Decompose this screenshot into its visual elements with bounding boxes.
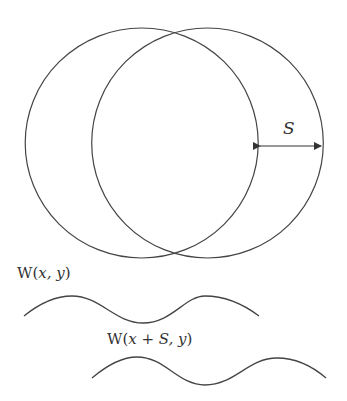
shift-label: S <box>283 118 295 138</box>
label-func: W( <box>107 330 128 348</box>
label-func: W( <box>17 264 38 282</box>
label-close: ) <box>187 330 193 348</box>
wavefront-shifted-label: W(x + S, y) <box>107 330 192 348</box>
label-close: ) <box>65 264 71 282</box>
wavefront-shifted <box>92 357 326 385</box>
wavefront-original-label: W(x, y) <box>17 264 71 282</box>
shifted-circle <box>92 28 324 258</box>
label-args: x, y <box>38 264 64 282</box>
wavefront-original <box>24 296 259 323</box>
shear-interferometry-diagram: S W(x, y) W(x + S, y) <box>0 0 347 401</box>
original-circle <box>25 28 258 258</box>
label-args: x + S, y <box>128 330 186 348</box>
